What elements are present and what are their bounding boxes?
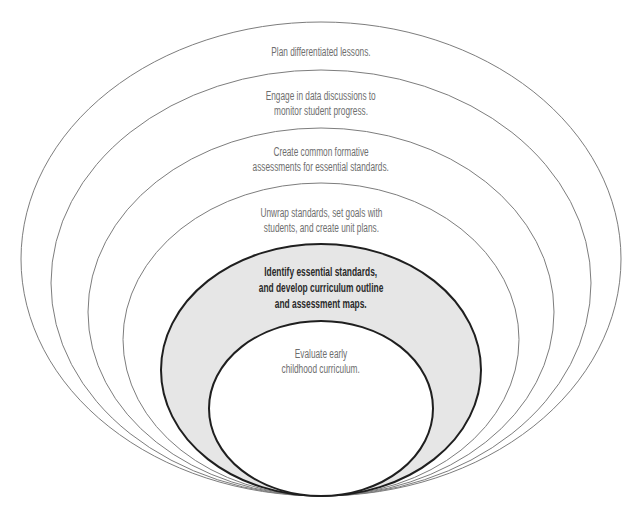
- ring-3-label-line-2: assessments for essential standards.: [0, 158, 641, 174]
- ring-6-label-line-1: Evaluate early: [0, 345, 641, 361]
- ring-1-label-line-1: Plan differentiated lessons.: [0, 43, 641, 59]
- ring-5-text: and develop curriculum outline: [259, 280, 384, 296]
- ring-6-label-line-2: childhood curriculum.: [0, 360, 641, 376]
- ellipse-rings: [0, 0, 641, 520]
- ring-1-text: Plan differentiated lessons.: [271, 44, 370, 60]
- ring-4-label-line-2: students, and create unit plans.: [0, 219, 641, 235]
- ring-5-text: Identify essential standards,: [265, 264, 378, 280]
- ring-4-label-line-1: Unwrap standards, set goals with: [0, 204, 641, 220]
- ring-5-label-line-3: and assessment maps.: [0, 295, 641, 311]
- ring-5-label-line-1: Identify essential standards,: [0, 263, 641, 279]
- ring-5-label-line-2: and develop curriculum outline: [0, 279, 641, 295]
- nested-ellipse-diagram: Plan differentiated lessons. Engage in d…: [0, 0, 641, 520]
- ring-6-text: childhood curriculum.: [282, 361, 360, 377]
- ring-3-label-line-1: Create common formative: [0, 143, 641, 159]
- ring-2-text: monitor student progress.: [274, 103, 368, 119]
- ring-2-label-line-2: monitor student progress.: [0, 102, 641, 118]
- ring-3-text: assessments for essential standards.: [253, 159, 389, 175]
- ring-4-text: students, and create unit plans.: [263, 220, 378, 236]
- ring-5-text: and assessment maps.: [275, 296, 367, 312]
- ring-2-label-line-1: Engage in data discussions to: [0, 87, 641, 103]
